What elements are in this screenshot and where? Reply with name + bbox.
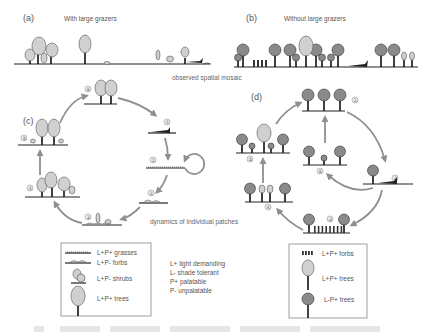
svg-text:①: ① [151,157,156,163]
shrub-icon [167,56,174,62]
arrow-5-to-1 [276,103,300,124]
svg-text:⑥: ⑥ [318,168,323,174]
light-tree-icon [259,185,265,193]
legend-c-item-3: L+P- shrubs [97,275,133,282]
dark-tree-icon [269,44,281,56]
arrow-3-to-4 [55,203,82,223]
legend-d: L+P+ forbs L+P+ trees L-P+ trees [289,244,367,318]
forbs-icon [144,200,160,202]
fallen-log-icon [151,127,170,133]
forb-stem [314,226,316,233]
light-tree-icon [402,52,407,60]
light-tree-icon [181,47,189,57]
cropped-caption [34,326,380,332]
dark-tree-icon [304,214,315,225]
fallen-log-icon [186,58,203,63]
dynamics-caption: dynamics of individual patches [150,218,239,226]
fallen-log-icon [348,60,368,67]
legend-c-item-4: L+P+ trees [97,295,130,302]
stage-c-2: ② [139,190,168,203]
stage-c-4: ④ [25,172,80,197]
stage-c-7: ⑦ [148,119,176,133]
stage-d-4: ④ [265,204,271,210]
panel-b-letter: (b) [246,13,257,23]
stage-d-6: ⑥ [317,168,323,174]
forb-patch [314,226,342,233]
light-tree-icon [105,80,117,96]
forb-patch [253,60,267,67]
stage-c-3: ③ [82,213,122,225]
arrow-1-self-loop [185,154,204,174]
svg-text:③: ③ [86,214,91,220]
arrow-2-to-3 [352,190,382,225]
dark-tree-icon [235,54,242,61]
diagram-canvas: (a) With large grazers (b) Without large… [0,0,433,333]
dark-tree-icon [334,89,346,101]
shrub-icon [59,139,64,143]
legend-c-item-2: L+P- forbs [97,259,128,266]
arrow-2-to-6 [328,175,373,190]
arrow-3-to-4 [278,210,303,230]
key-item-1: L+ light demanding [170,260,225,268]
forb-stem [325,226,327,233]
dark-tree-row [235,44,401,67]
shrub-icon [156,50,160,60]
light-tree-icon [267,185,273,193]
light-tree-icon [79,35,91,53]
shrub-icon [41,53,47,63]
legend-d-item-3: L-P+ trees [324,296,355,303]
stage-d-5: ⑤ [247,156,253,162]
panel-c-letter: (c) [23,116,34,126]
abbreviation-key: L+ light demanding L- shade tolerant P+ … [170,260,225,295]
dark-tree-icon [249,143,255,149]
svg-text:③: ③ [328,216,333,222]
dark-tree-icon [245,183,256,194]
legend-c: L+P+ grasses L+P- forbs L+P- shrubs L+P+… [61,243,151,316]
forbs-icon [86,223,110,224]
svg-text:⑦: ⑦ [165,119,170,125]
panel-d-letter: (d) [251,92,262,102]
svg-text:④: ④ [266,204,271,210]
svg-text:④: ④ [28,185,33,191]
arrow-6-to-7 [118,98,155,115]
light-tree-icon [257,124,271,142]
svg-text:⑤: ⑤ [22,135,27,141]
arrow-2-to-3 [122,207,140,219]
shrub-icon [69,186,75,194]
light-tree-icon [58,177,70,191]
dark-tree-icon [339,214,350,225]
light-tree-icon [46,43,58,57]
svg-text:⑤: ⑤ [248,156,253,162]
forb-stem [337,226,339,233]
key-item-2: L- shade tolerant [170,269,219,276]
light-tree-icon [36,119,48,137]
key-item-3: P+ palatable [170,278,207,286]
dark-tree-icon [375,44,387,56]
shrub-icon [96,213,100,223]
light-tree-icon [71,286,85,306]
panel-a: (a) With large grazers [14,13,211,65]
dark-tree-icon [302,293,314,305]
svg-text:⑥: ⑥ [86,86,91,92]
legend-c-item-1: L+P+ grasses [97,249,138,257]
dark-tree-icon [328,54,335,61]
panel-b-title: Without large grazers [284,15,347,23]
light-tree-icon [48,119,60,137]
dark-tree-icon [332,44,344,56]
light-tree-icon [410,52,415,60]
panel-d: (d) ① ② ③ ④ ⑤ ⑥ [236,89,413,233]
dark-tree-icon [302,89,314,101]
light-tree-icon [302,260,314,276]
arrow-1-to-2 [157,175,167,192]
dark-tree-icon [268,143,274,149]
light-tree-icon [299,36,313,56]
panel-c: (c) ⑥ ⑦ ① ② [18,80,204,225]
shrub-icon [31,139,36,143]
arrow-7-to-1 [165,138,168,158]
forb-stem [329,226,331,233]
panel-a-title: With large grazers [64,15,117,23]
key-item-4: P- unpalatable [170,287,212,295]
spatial-mosaic-caption: observed spatial mosaic [172,74,242,82]
forb-stem [318,226,320,233]
forb-stem [333,226,335,233]
